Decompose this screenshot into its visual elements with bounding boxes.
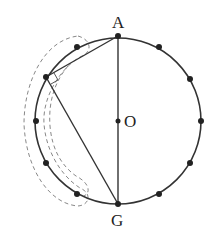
right-angle-marker bbox=[51, 73, 58, 84]
circle-diagram: A O G bbox=[0, 0, 217, 250]
label-g: G bbox=[111, 211, 123, 230]
label-a: A bbox=[112, 13, 125, 32]
chord-a-p bbox=[46, 36, 118, 77]
label-o: O bbox=[124, 112, 136, 131]
chord-p-g bbox=[46, 77, 118, 204]
